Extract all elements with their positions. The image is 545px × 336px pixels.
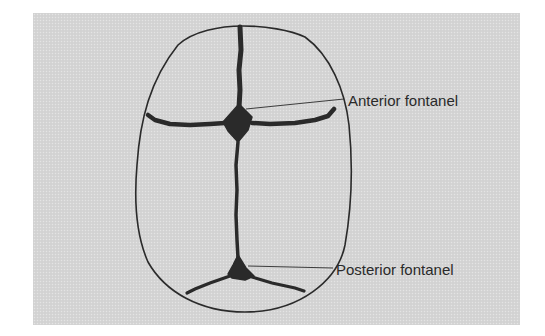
posterior-leader-line [248,266,333,268]
lambdoid-suture-right [252,277,304,291]
posterior-fontanel [228,255,254,280]
coronal-suture-left [148,115,225,125]
coronal-suture-right [252,109,334,124]
lambdoid-suture-left [187,276,230,293]
anterior-fontanel-label: Anterior fontanel [348,93,458,108]
skull-diagram [0,0,545,336]
posterior-fontanel-label: Posterior fontanel [336,262,454,277]
sagittal-suture-lower [236,142,238,258]
anterior-leader-line [246,99,344,109]
sagittal-suture-upper [239,27,241,108]
anterior-fontanel [223,104,252,142]
